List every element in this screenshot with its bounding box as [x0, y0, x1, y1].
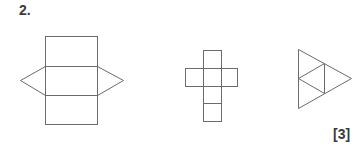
triangular-prism-net	[21, 37, 124, 125]
marks-label: [3]	[333, 126, 350, 142]
nets-figure	[0, 0, 361, 148]
tetrahedron-net	[299, 50, 352, 109]
cube-net	[186, 51, 238, 122]
